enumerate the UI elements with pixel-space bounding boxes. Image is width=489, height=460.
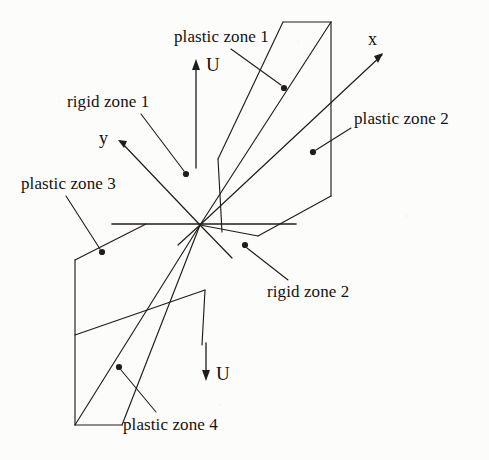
label-displacement-bottom: U: [216, 364, 230, 383]
leader-dot-plastic-zone-4: [116, 364, 122, 370]
leader-dot-plastic-zone-1: [281, 85, 287, 91]
lower-plane-inner-fold: [122, 225, 200, 425]
label-y-axis: y: [99, 129, 108, 147]
label-rigid-zone-2: rigid zone 2: [267, 283, 349, 300]
upper-plane-bottom-edge: [258, 196, 331, 236]
label-rigid-zone-1: rigid zone 1: [67, 93, 149, 110]
label-plastic-zone-2: plastic zone 2: [354, 110, 449, 127]
leader-line-rigid-zone-1: [141, 114, 184, 171]
leader-line-plastic-zone-3: [66, 196, 100, 249]
lower-plane-top-edge: [75, 224, 146, 260]
label-plastic-zone-4: plastic zone 4: [123, 416, 218, 433]
displacement-arrow-up-head: [192, 59, 200, 70]
lower-plane-fold-diagonal: [75, 225, 200, 425]
leader-dot-plastic-zone-3: [99, 249, 105, 255]
axes-group: [120, 55, 382, 258]
displacement-arrow-down-head: [202, 370, 210, 381]
lower-plane-inner-top: [75, 290, 205, 335]
leader-line-plastic-zone-2: [316, 128, 351, 150]
leader-dot-rigid-zone-2: [242, 242, 248, 248]
label-x-axis: x: [368, 30, 377, 48]
lower-plane-group: [75, 224, 205, 425]
upper-plane-fold-diagonal: [200, 22, 331, 225]
lower-plane-inner-edge: [202, 290, 205, 345]
diagram-canvas: [0, 0, 489, 460]
leader-dots-group: [99, 85, 316, 370]
displacement-arrow-down-group: [202, 343, 210, 381]
leader-line-plastic-zone-4: [121, 370, 156, 412]
label-displacement-top: U: [206, 55, 220, 74]
plastic-rigid-zone-diagram: plastic zone 1 plastic zone 2 plastic zo…: [0, 0, 489, 460]
label-plastic-zone-1: plastic zone 1: [174, 28, 269, 45]
leader-dot-plastic-zone-2: [310, 149, 316, 155]
label-plastic-zone-3: plastic zone 3: [21, 175, 116, 192]
leader-line-rigid-zone-2: [247, 248, 288, 280]
leader-dot-rigid-zone-1: [183, 171, 189, 177]
y-axis-line: [120, 141, 200, 225]
displacement-arrow-up-group: [192, 59, 200, 168]
